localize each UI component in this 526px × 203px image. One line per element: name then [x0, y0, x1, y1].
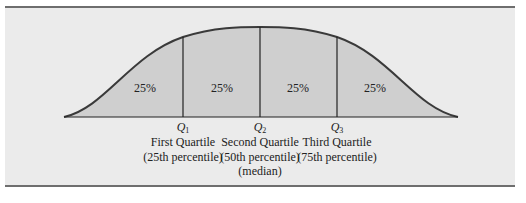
q2-description: Second Quartile (50th percentile) (media…	[220, 135, 300, 179]
segment-label-1: 25%	[134, 81, 156, 96]
segment-label-3: 25%	[287, 81, 309, 96]
segment-label-4: 25%	[364, 81, 386, 96]
q1-label: Q1	[177, 120, 190, 135]
q2-percentile: (50th percentile)	[220, 150, 300, 165]
segment-label-2: 25%	[211, 81, 233, 96]
q2-name: Second Quartile	[220, 135, 300, 150]
q1-name: First Quartile	[143, 135, 223, 150]
curve-area-fill	[64, 27, 458, 117]
q3-description: Third Quartile (75th percentile)	[297, 135, 377, 164]
q3-name: Third Quartile	[297, 135, 377, 150]
q3-percentile: (75th percentile)	[297, 150, 377, 165]
q1-description: First Quartile (25th percentile)	[143, 135, 223, 164]
q1-percentile: (25th percentile)	[143, 150, 223, 165]
q3-label: Q3	[331, 120, 344, 135]
q2-extra: (median)	[220, 164, 300, 179]
q2-label: Q2	[254, 120, 267, 135]
